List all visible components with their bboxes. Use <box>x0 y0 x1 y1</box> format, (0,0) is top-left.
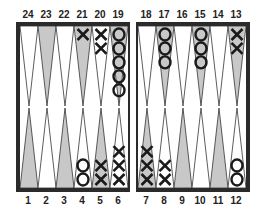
point-8[interactable] <box>156 108 174 188</box>
point-label-10: 10 <box>191 196 209 206</box>
point-label-14: 14 <box>209 10 227 20</box>
point-1[interactable] <box>20 108 38 188</box>
point-label-17: 17 <box>155 10 173 20</box>
point-label-9: 9 <box>173 196 191 206</box>
point-label-7: 7 <box>137 196 155 206</box>
point-label-15: 15 <box>191 10 209 20</box>
point-7[interactable] <box>138 108 156 188</box>
point-label-6: 6 <box>109 196 127 206</box>
point-14[interactable] <box>210 26 228 106</box>
point-label-8: 8 <box>155 196 173 206</box>
point-label-11: 11 <box>209 196 227 206</box>
point-6[interactable] <box>110 108 128 188</box>
point-label-20: 20 <box>91 10 109 20</box>
board-bar <box>128 22 138 192</box>
point-label-18: 18 <box>137 10 155 20</box>
point-24[interactable] <box>20 26 38 106</box>
point-15[interactable] <box>192 26 210 106</box>
point-9[interactable] <box>174 108 192 188</box>
point-3[interactable] <box>56 108 74 188</box>
point-label-1: 1 <box>19 196 37 206</box>
point-22[interactable] <box>56 26 74 106</box>
point-19[interactable] <box>110 26 128 106</box>
point-4[interactable] <box>74 108 92 188</box>
point-label-19: 19 <box>109 10 127 20</box>
point-label-16: 16 <box>173 10 191 20</box>
point-label-24: 24 <box>19 10 37 20</box>
point-label-5: 5 <box>91 196 109 206</box>
point-16[interactable] <box>174 26 192 106</box>
point-17[interactable] <box>156 26 174 106</box>
point-label-13: 13 <box>227 10 245 20</box>
point-12[interactable] <box>228 108 246 188</box>
point-23[interactable] <box>38 26 56 106</box>
point-label-12: 12 <box>227 196 245 206</box>
point-11[interactable] <box>210 108 228 188</box>
point-label-21: 21 <box>73 10 91 20</box>
point-label-4: 4 <box>73 196 91 206</box>
point-2[interactable] <box>38 108 56 188</box>
point-13[interactable] <box>228 26 246 106</box>
point-10[interactable] <box>192 108 210 188</box>
point-18[interactable] <box>138 26 156 106</box>
point-label-3: 3 <box>55 196 73 206</box>
point-20[interactable] <box>92 26 110 106</box>
point-label-22: 22 <box>55 10 73 20</box>
point-label-23: 23 <box>37 10 55 20</box>
point-5[interactable] <box>92 108 110 188</box>
point-label-2: 2 <box>37 196 55 206</box>
backgammon-board <box>16 22 250 192</box>
point-21[interactable] <box>74 26 92 106</box>
